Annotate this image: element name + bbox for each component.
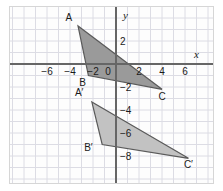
vertex-label-C: C bbox=[158, 91, 165, 102]
coordinate-plane-svg: xy−6−4−202462−2−4−6−8ABCA′B′C′ bbox=[10, 7, 213, 183]
vertex-label-B: B bbox=[79, 77, 86, 88]
y-axis-label: y bbox=[122, 9, 128, 21]
vertex-label-Bprime: B′ bbox=[84, 142, 93, 153]
plotted-shapes bbox=[78, 26, 188, 158]
x-tick-label: 4 bbox=[159, 66, 165, 77]
x-tick-label: −2 bbox=[87, 66, 99, 77]
y-tick-label: −8 bbox=[120, 151, 132, 162]
vertex-label-Aprime: A′ bbox=[75, 87, 84, 98]
x-tick-label: −6 bbox=[41, 66, 53, 77]
x-tick-label: −4 bbox=[64, 66, 76, 77]
y-tick-label: −6 bbox=[120, 128, 132, 139]
y-tick-label: 2 bbox=[120, 36, 126, 47]
vertex-label-A: A bbox=[66, 12, 73, 23]
x-axis-label: x bbox=[193, 48, 199, 60]
y-tick-label: −2 bbox=[120, 82, 132, 93]
coordinate-plane-panel: xy−6−4−202462−2−4−6−8ABCA′B′C′ bbox=[9, 6, 214, 184]
x-tick-label: 0 bbox=[105, 66, 111, 77]
x-tick-label: 2 bbox=[136, 66, 142, 77]
y-tick-label: −4 bbox=[120, 105, 132, 116]
vertex-label-Cprime: C′ bbox=[184, 159, 193, 170]
x-tick-label: 6 bbox=[182, 66, 188, 77]
graph-screenshot: xy−6−4−202462−2−4−6−8ABCA′B′C′ bbox=[0, 0, 223, 191]
